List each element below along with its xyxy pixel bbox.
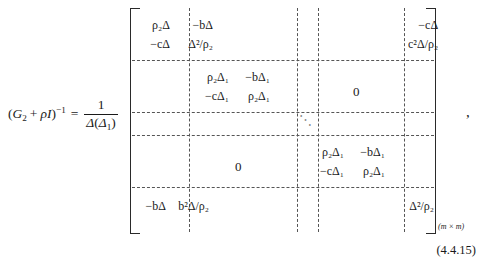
- block-row-1: ρ₂Δ₁−bΔ₁: [193, 68, 270, 87]
- entry-rho2-delta1: ρ₂Δ₁: [308, 143, 344, 162]
- partition-hline-2: [132, 112, 434, 113]
- entry-rho2-delta1: ρ₂Δ₁: [229, 87, 270, 106]
- entry-minus-c-delta1: −cΔ₁: [193, 87, 229, 106]
- entry-c-sq-delta-over-rho2: c²Δ/ρ₂: [408, 35, 438, 54]
- partition-hline-1: [132, 60, 434, 61]
- lhs-expression: (G2+ρI)−1: [8, 106, 66, 122]
- block-row-2: Δ²/ρ₂: [404, 197, 434, 216]
- matrix-zero-upper-right: 0: [353, 84, 360, 100]
- diagonal-ellipsis-icon: ⋱: [299, 112, 312, 128]
- entry-minus-b-delta: −bΔ: [170, 16, 213, 35]
- block-row-2: −cΔΔ²/ρ₂: [136, 35, 213, 54]
- block-row-2: −bΔb²Δ/ρ₂: [132, 197, 209, 216]
- matrix-zero-lower-left: 0: [235, 159, 242, 175]
- plus-operator: +: [30, 106, 38, 121]
- matrix-block-bottom-right: Δ²/ρ₂: [404, 197, 434, 216]
- entry-minus-b-delta1: −bΔ₁: [344, 143, 385, 162]
- block-matrix: ρ₂Δ−bΔ −cΔΔ²/ρ₂ −cΔ c²Δ/ρ₂ ρ₂Δ₁−bΔ₁ −cΔ₁…: [130, 8, 436, 232]
- inverse-exponent: −1: [56, 105, 66, 115]
- matrix-block-bottom-left: −bΔb²Δ/ρ₂: [132, 197, 209, 216]
- entry-rho2-delta1: ρ₂Δ₁: [193, 68, 229, 87]
- matrix-symbol-g: G: [13, 106, 23, 121]
- matrix-block-middle-upper: ρ₂Δ₁−bΔ₁ −cΔ₁ρ₂Δ₁: [193, 68, 270, 105]
- entry-delta-sq-over-rho2: Δ²/ρ₂: [170, 35, 213, 54]
- matrix-block-top-left: ρ₂Δ−bΔ −cΔΔ²/ρ₂: [136, 16, 213, 53]
- fraction-numerator: 1: [94, 98, 109, 114]
- block-row-2: −cΔ₁ρ₂Δ₁: [193, 87, 270, 106]
- partition-hline-4: [132, 187, 434, 188]
- fraction-denominator: Δ(Δ1): [84, 115, 117, 131]
- matrix-block-top-right: −cΔ c²Δ/ρ₂: [408, 16, 438, 53]
- matrix-partition-grid: ρ₂Δ−bΔ −cΔΔ²/ρ₂ −cΔ c²Δ/ρ₂ ρ₂Δ₁−bΔ₁ −cΔ₁…: [132, 8, 434, 232]
- equation-number: (4.4.15): [436, 243, 476, 258]
- matrix-subscript: 2: [22, 113, 27, 123]
- entry-minus-c-delta1: −cΔ₁: [308, 162, 344, 181]
- matrix-block-middle-lower: ρ₂Δ₁−bΔ₁ −cΔ₁ρ₂Δ₁: [308, 143, 385, 180]
- block-row-1: ρ₂Δ₁−bΔ₁: [308, 143, 385, 162]
- entry-minus-b-delta: −bΔ: [132, 197, 166, 216]
- entry-minus-c-delta: −cΔ: [412, 16, 438, 35]
- entry-rho2-delta: ρ₂Δ: [136, 16, 170, 35]
- block-row-1: ρ₂Δ−bΔ: [136, 16, 213, 35]
- prefactor-fraction: 1 Δ(Δ1): [84, 98, 117, 130]
- partition-hline-3: [132, 135, 434, 136]
- entry-minus-b-delta1: −bΔ₁: [229, 68, 270, 87]
- matrix-dimension-label: (m × m): [438, 222, 464, 231]
- entry-minus-c-delta: −cΔ: [136, 35, 170, 54]
- block-row-2: c²Δ/ρ₂: [408, 35, 438, 54]
- partition-vline-2: [297, 8, 298, 232]
- partition-vline-3: [318, 8, 319, 232]
- entry-delta-sq-over-rho2: Δ²/ρ₂: [404, 197, 434, 216]
- equals-sign: =: [71, 106, 79, 122]
- equation-left-hand-side: (G2+ρI)−1 = 1 Δ(Δ1): [8, 98, 120, 130]
- entry-b-sq-delta-over-rho2: b²Δ/ρ₂: [166, 197, 209, 216]
- denominator-arg-close: ): [111, 115, 116, 130]
- block-row-2: −cΔ₁ρ₂Δ₁: [308, 162, 385, 181]
- trailing-comma: ,: [466, 104, 470, 121]
- denominator-arg-delta: Δ: [99, 115, 107, 130]
- entry-rho2-delta1: ρ₂Δ₁: [344, 162, 385, 181]
- block-row-1: −cΔ: [408, 16, 438, 35]
